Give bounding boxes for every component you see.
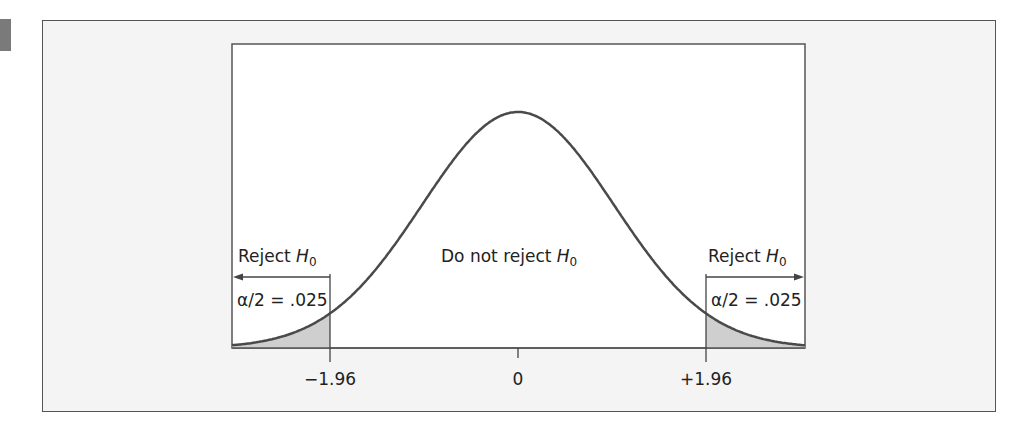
- alpha-left-label: α/2 = .025: [237, 290, 328, 310]
- tick-label-neg-1-96: −1.96: [304, 369, 356, 389]
- tick-label-pos-1-96: +1.96: [680, 369, 732, 389]
- reject-left-label: Reject H0: [238, 246, 317, 269]
- do-not-reject-label: Do not reject H0: [441, 246, 577, 269]
- normal-distribution-chart: Reject H0 Do not reject H0 Reject H0 α/2…: [0, 0, 1029, 432]
- tick-label-zero: 0: [513, 369, 524, 389]
- alpha-right-label: α/2 = .025: [711, 290, 802, 310]
- reject-right-label: Reject H0: [708, 246, 787, 269]
